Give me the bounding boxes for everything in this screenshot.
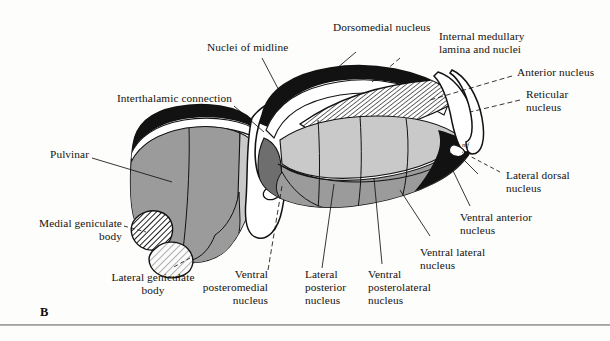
label-lateral-dorsal-nucleus: Lateral dorsal nucleus <box>506 169 570 195</box>
label-reticular-nucleus: Reticular nucleus <box>526 88 568 114</box>
label-ventral-posterolateral-nucleus: Ventral posterolateral nucleus <box>368 268 431 308</box>
footer-rule <box>0 324 610 326</box>
label-ventral-lateral-nucleus: Ventral lateral nucleus <box>420 246 485 272</box>
label-ventral-anterior-nucleus: Ventral anterior nucleus <box>460 211 532 237</box>
label-interthalamic-connection: Interthalamic connection <box>117 92 232 105</box>
label-lateral-posterior-nucleus: Lateral posterior nucleus <box>305 268 346 308</box>
figure-panel-b: Nuclei of midline Dorsomedial nucleus In… <box>0 0 610 341</box>
pulvinar-block <box>128 102 260 278</box>
label-medial-geniculate-body: Medial geniculate body <box>0 217 122 243</box>
label-internal-medullary-lamina: Internal medullary lamina and nuclei <box>439 30 525 56</box>
panel-letter: B <box>40 305 48 320</box>
label-pulvinar: Pulvinar <box>50 148 89 161</box>
label-mammillothalamic-mf: mf <box>462 141 469 149</box>
label-dorsomedial-nucleus: Dorsomedial nucleus <box>333 21 431 34</box>
label-anterior-nucleus: Anterior nucleus <box>517 66 594 79</box>
label-nuclei-of-midline: Nuclei of midline <box>207 41 288 54</box>
label-ventral-posteromedial-nucleus: Ventral posteromedial nucleus <box>178 268 268 308</box>
